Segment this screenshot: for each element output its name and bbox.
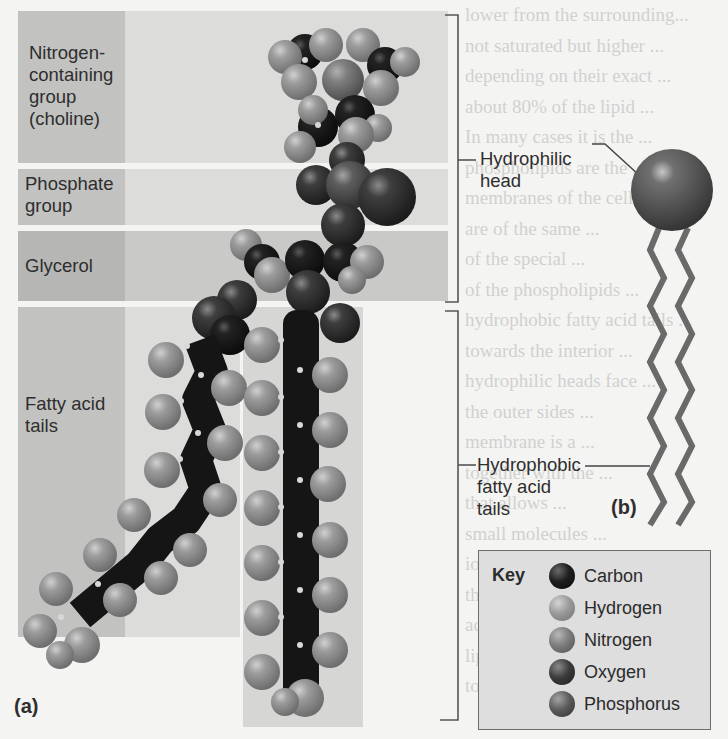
atom-key-legend: Key Carbon Hydrogen Nitrogen Oxygen Phos… — [478, 550, 711, 730]
key-title: Key — [492, 565, 525, 586]
key-label: Oxygen — [584, 662, 646, 683]
phosphate-atoms — [296, 142, 416, 247]
hydrogen-atom-icon — [549, 595, 575, 621]
simplified-phospholipid — [631, 149, 713, 525]
label-hydrophilic-head: Hydrophilic head — [480, 148, 572, 192]
label-line: head — [480, 170, 572, 192]
key-label: Hydrogen — [584, 598, 662, 619]
carbon-atom-icon — [549, 563, 575, 589]
panel-b-letter: (b) — [611, 496, 637, 519]
key-item-hydrogen: Hydrogen — [549, 594, 662, 622]
label-hydrophobic-tails: Hydrophobic fatty acid tails — [477, 454, 581, 520]
nitrogen-atom-icon — [549, 627, 575, 653]
key-item-nitrogen: Nitrogen — [549, 626, 652, 654]
oxygen-atom-icon — [549, 659, 575, 685]
label-line: Hydrophobic — [477, 454, 581, 476]
label-line: fatty acid — [477, 476, 581, 498]
label-line: Hydrophilic — [480, 148, 572, 170]
key-label: Phosphorus — [584, 694, 680, 715]
fatty-acid-tail-right — [244, 303, 360, 717]
key-item-oxygen: Oxygen — [549, 658, 646, 686]
key-item-carbon: Carbon — [549, 562, 643, 590]
brackets — [440, 15, 476, 720]
phosphorus-atom-icon — [549, 691, 575, 717]
key-label: Nitrogen — [584, 630, 652, 651]
key-label: Carbon — [584, 566, 643, 587]
key-item-phosphorus: Phosphorus — [549, 690, 680, 718]
label-line: tails — [477, 498, 581, 520]
glycerol-atoms — [217, 229, 384, 320]
fatty-acid-tail-left — [23, 296, 250, 669]
